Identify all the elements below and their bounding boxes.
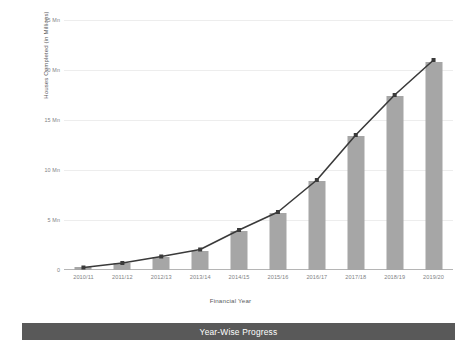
- data-point-marker: [120, 261, 124, 265]
- data-point-marker: [354, 133, 358, 137]
- data-point-marker: [237, 228, 241, 232]
- x-axis-tick-labels: 2010/112011/122012/132013/142014/152015/…: [64, 274, 453, 288]
- data-point-marker: [315, 178, 319, 182]
- x-axis-tick-label: 2013/14: [190, 274, 211, 280]
- y-axis-tick-labels: 05 Mn10 Mn15 Mn20 Mn25 Mn: [36, 20, 60, 270]
- x-axis-tick-label: 2019/20: [423, 274, 444, 280]
- chart-card: Houses Completed (in Millions) 05 Mn10 M…: [0, 0, 461, 340]
- data-point-marker: [198, 248, 202, 252]
- line-series: [64, 20, 453, 270]
- y-axis-tick-label: 0: [57, 267, 60, 273]
- x-axis-tick-label: 2014/15: [229, 274, 250, 280]
- x-axis-tick-label: 2011/12: [112, 274, 133, 280]
- x-axis-title: Financial Year: [0, 297, 461, 304]
- x-axis-tick-label: 2015/16: [267, 274, 288, 280]
- data-point-marker: [159, 255, 163, 259]
- x-axis-tick-label: 2018/19: [384, 274, 405, 280]
- data-point-marker: [393, 93, 397, 97]
- data-point-marker: [81, 266, 85, 270]
- y-axis-tick-label: 10 Mn: [45, 167, 60, 173]
- x-axis-tick-label: 2016/17: [306, 274, 327, 280]
- y-axis-tick-label: 5 Mn: [48, 217, 60, 223]
- x-axis-tick-label: 2012/13: [151, 274, 172, 280]
- y-axis-tick-label: 20 Mn: [45, 67, 60, 73]
- plot-area: [64, 20, 453, 270]
- trend-line: [83, 60, 433, 268]
- y-axis-tick-label: 15 Mn: [45, 117, 60, 123]
- data-point-marker: [432, 58, 436, 62]
- banner-label: Year-Wise Progress: [200, 327, 278, 337]
- bottom-banner: Year-Wise Progress: [22, 323, 455, 340]
- y-axis-tick-label: 25 Mn: [45, 17, 60, 23]
- x-axis-tick-label: 2010/11: [73, 274, 94, 280]
- x-axis-tick-label: 2017/18: [345, 274, 366, 280]
- data-point-marker: [276, 210, 280, 214]
